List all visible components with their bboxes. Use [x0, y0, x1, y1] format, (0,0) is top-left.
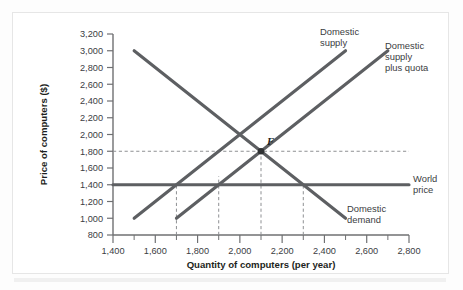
- y-tick-group: [107, 34, 113, 235]
- label-domestic-demand-line1: Domestic: [347, 203, 386, 214]
- y-label-2600: 2,600: [80, 80, 103, 90]
- y-label-1800: 1,800: [80, 147, 103, 157]
- x-tick-labels: 1,400 1,600 1,800 2,000 2,200 2,400 2,60…: [102, 246, 421, 256]
- y-axis-title: Price of computers ($): [38, 84, 49, 185]
- label-world-price-line1: World: [413, 173, 437, 184]
- y-label-1400: 1,400: [80, 180, 103, 190]
- x-label-2800: 2,800: [398, 246, 421, 256]
- y-label-3200: 3,200: [80, 29, 103, 39]
- x-label-2600: 2,600: [355, 246, 378, 256]
- y-tick-labels: 3,200 3,000 2,800 2,600 2,400 2,200 2,00…: [80, 29, 103, 240]
- x-axis-title: Quantity of computers (per year): [187, 259, 336, 270]
- point-f-label: F: [266, 136, 274, 147]
- label-supply-plus-quota: Domestic supply plus quota: [385, 40, 429, 73]
- x-label-2000: 2,000: [228, 246, 251, 256]
- point-f-marker: [258, 148, 265, 155]
- label-supply-plus-quota-line2: supply: [385, 51, 412, 62]
- x-label-1600: 1,600: [144, 246, 167, 256]
- label-domestic-demand: Domestic demand: [347, 203, 386, 225]
- figure-card: 3,200 3,000 2,800 2,600 2,400 2,200 2,00…: [12, 12, 449, 274]
- x-tick-group: [113, 235, 409, 243]
- label-world-price-line2: price: [413, 184, 433, 195]
- x-label-2400: 2,400: [313, 246, 336, 256]
- economics-chart: 3,200 3,000 2,800 2,600 2,400 2,200 2,00…: [13, 13, 449, 273]
- bottom-strip: [14, 278, 446, 282]
- y-label-2000: 2,000: [80, 130, 103, 140]
- x-label-2200: 2,200: [271, 246, 294, 256]
- y-label-3000: 3,000: [80, 46, 103, 56]
- x-label-1800: 1,800: [186, 246, 209, 256]
- y-label-2200: 2,200: [80, 113, 103, 123]
- y-label-800: 800: [88, 230, 103, 240]
- y-label-1600: 1,600: [80, 163, 103, 173]
- x-label-1400: 1,400: [102, 246, 125, 256]
- curve-domestic-supply-plus-quota: [176, 51, 387, 219]
- label-domestic-demand-line2: demand: [347, 214, 381, 225]
- y-label-1000: 1,000: [80, 214, 103, 224]
- label-world-price: World price: [413, 173, 437, 195]
- y-label-2800: 2,800: [80, 63, 103, 73]
- figure-root: 3,200 3,000 2,800 2,600 2,400 2,200 2,00…: [0, 0, 463, 290]
- y-label-1200: 1,200: [80, 197, 103, 207]
- y-label-2400: 2,400: [80, 96, 103, 106]
- label-supply-plus-quota-line1: Domestic: [385, 40, 424, 51]
- label-domestic-supply: Domestic supply: [320, 26, 359, 48]
- label-domestic-supply-line1: Domestic: [320, 26, 359, 37]
- label-supply-plus-quota-line3: plus quota: [385, 62, 429, 73]
- label-domestic-supply-line2: supply: [320, 37, 347, 48]
